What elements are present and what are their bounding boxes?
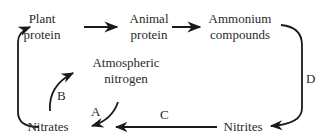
node-plant-protein: Plant protein bbox=[12, 11, 72, 43]
ammonium-compounds-line1: Ammonium bbox=[200, 11, 280, 27]
node-animal-protein: Animal protein bbox=[118, 11, 180, 43]
plant-protein-line1: Plant bbox=[12, 11, 72, 27]
edge-label-c: C bbox=[160, 108, 169, 122]
node-ammonium-compounds: Ammonium compounds bbox=[200, 11, 280, 43]
plant-protein-line2: protein bbox=[12, 27, 72, 43]
edge-label-d: D bbox=[306, 72, 315, 86]
atmospheric-nitrogen-line1: Atmospheric bbox=[80, 55, 172, 71]
nitrites-label: Nitrites bbox=[224, 119, 263, 134]
node-atmospheric-nitrogen: Atmospheric nitrogen bbox=[80, 55, 172, 87]
animal-protein-line1: Animal bbox=[118, 11, 180, 27]
ammonium-compounds-line2: compounds bbox=[200, 27, 280, 43]
edge-label-b: B bbox=[57, 89, 66, 103]
node-nitrates: Nitrates bbox=[10, 119, 86, 135]
animal-protein-line2: protein bbox=[118, 27, 180, 43]
edge-label-a: A bbox=[91, 105, 100, 119]
atmospheric-nitrogen-line2: nitrogen bbox=[80, 71, 172, 87]
nitrogen-cycle-diagram: Plant protein Animal protein Ammonium co… bbox=[0, 0, 330, 140]
node-nitrites: Nitrites bbox=[215, 119, 271, 135]
nitrates-label: Nitrates bbox=[27, 119, 68, 134]
